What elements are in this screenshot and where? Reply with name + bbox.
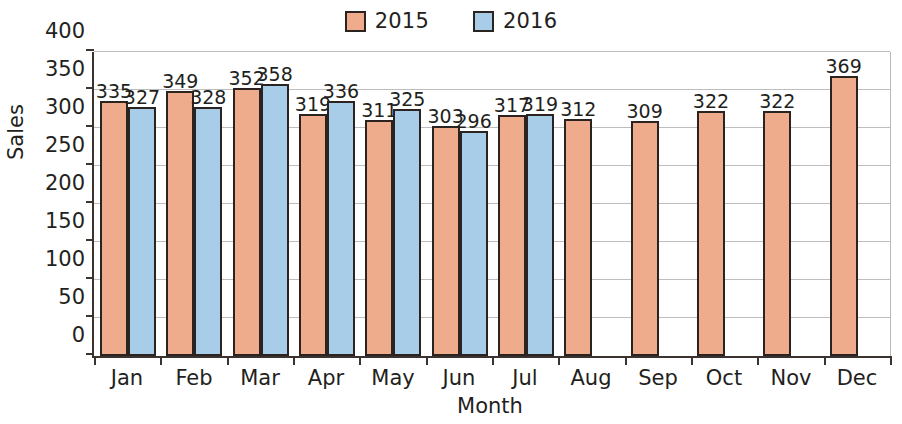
bars: 322 (757, 52, 823, 356)
x-tick-mark (691, 356, 693, 365)
bars: 312 (558, 52, 624, 356)
bar-2015-apr: 319 (299, 114, 327, 356)
x-tick-label-aug: Aug (570, 368, 611, 389)
legend-swatch-2016 (473, 11, 494, 32)
plot-area: 050100150200250300350400 335327349328352… (92, 52, 890, 358)
bar-value-label: 309 (626, 102, 662, 121)
bars: 317319 (492, 52, 558, 356)
bar-value-label: 322 (759, 92, 795, 111)
bar-value-label: 358 (257, 65, 293, 84)
bar-2016-jul: 319 (526, 114, 554, 356)
y-tick-mark (86, 125, 94, 127)
x-tick-mark (94, 356, 96, 365)
bar-value-label: 328 (190, 88, 226, 107)
x-tick-label-oct: Oct (706, 368, 742, 389)
x-tick-mark (426, 356, 428, 365)
y-tick-label: 400 (45, 21, 85, 42)
x-axis-title: Month (92, 396, 888, 417)
y-tick-mark (86, 49, 94, 51)
bars: 303296 (426, 52, 492, 356)
legend-entry-2015: 2015 (345, 11, 429, 32)
bar-group-jan: 335327 (94, 52, 160, 356)
bar-groups: 3353273493283523583193363113253032963173… (94, 52, 890, 356)
y-tick-label: 250 (45, 135, 85, 156)
bars: 335327 (94, 52, 160, 356)
bar-group-aug: 312 (558, 52, 624, 356)
x-tick-label-dec: Dec (837, 368, 878, 389)
bar-2015-jan: 335 (100, 101, 128, 356)
y-tick-mark (86, 239, 94, 241)
bar-2015-feb: 349 (166, 91, 194, 356)
bars: 319336 (293, 52, 359, 356)
y-tick-label: 150 (45, 211, 85, 232)
y-axis-title: Sales (6, 104, 27, 160)
bar-value-label: 369 (825, 57, 861, 76)
x-tick-mark (293, 356, 295, 365)
bar-group-nov: 322 (757, 52, 823, 356)
legend-label-2015: 2015 (375, 11, 429, 32)
y-tick-label: 350 (45, 59, 85, 80)
bars: 322 (691, 52, 757, 356)
x-tick-mark (824, 356, 826, 365)
x-tick-label-jun: Jun (443, 368, 476, 389)
bar-value-label: 296 (456, 112, 492, 131)
bar-2015-sep: 309 (631, 121, 659, 356)
bar-2015-mar: 352 (233, 88, 261, 356)
x-tick-label-mar: Mar (240, 368, 280, 389)
x-tick-mark (558, 356, 560, 365)
x-tick-mark (359, 356, 361, 365)
bar-group-jun: 303296 (426, 52, 492, 356)
legend-swatch-2015 (345, 11, 366, 32)
x-tick-mark (757, 356, 759, 365)
bar-2015-jun: 303 (432, 126, 460, 356)
bar-group-sep: 309 (625, 52, 691, 356)
y-tick-mark (86, 353, 94, 355)
bar-group-dec: 369 (824, 52, 890, 356)
y-tick-label: 200 (45, 173, 85, 194)
bar-value-label: 322 (693, 92, 729, 111)
bars: 311325 (359, 52, 425, 356)
bar-group-mar: 352358 (227, 52, 293, 356)
x-tick-label-jan: Jan (111, 368, 143, 389)
y-tick-label: 50 (58, 287, 85, 308)
bars: 309 (625, 52, 691, 356)
x-tick-mark (492, 356, 494, 365)
bar-2015-may: 311 (365, 120, 393, 356)
x-tick-mark (890, 356, 892, 365)
x-tick-label-sep: Sep (638, 368, 678, 389)
bars: 352358 (227, 52, 293, 356)
bar-value-label: 319 (522, 95, 558, 114)
bar-2016-may: 325 (393, 109, 421, 356)
bar-2015-aug: 312 (564, 119, 592, 356)
bar-value-label: 336 (323, 82, 359, 101)
bar-2015-nov: 322 (763, 111, 791, 356)
bar-group-oct: 322 (691, 52, 757, 356)
x-tick-mark (227, 356, 229, 365)
bar-group-jul: 317319 (492, 52, 558, 356)
bars: 349328 (160, 52, 226, 356)
bar-group-apr: 319336 (293, 52, 359, 356)
bar-2016-feb: 328 (194, 107, 222, 356)
x-tick-label-may: May (371, 368, 414, 389)
legend-entry-2016: 2016 (473, 11, 557, 32)
bar-2016-jun: 296 (460, 131, 488, 356)
chart-legend: 2015 2016 (0, 4, 902, 38)
x-tick-mark (625, 356, 627, 365)
y-tick-mark (86, 87, 94, 89)
bar-group-may: 311325 (359, 52, 425, 356)
x-tick-label-feb: Feb (175, 368, 212, 389)
bar-2015-oct: 322 (697, 111, 725, 356)
bars: 369 (824, 52, 890, 356)
legend-label-2016: 2016 (503, 11, 557, 32)
y-tick-label: 100 (45, 249, 85, 270)
y-tick-mark (86, 315, 94, 317)
bar-2015-jul: 317 (498, 115, 526, 356)
bar-value-label: 325 (389, 90, 425, 109)
y-tick-mark (86, 201, 94, 203)
plot-right-edge (890, 52, 891, 356)
y-tick-mark (86, 277, 94, 279)
bar-group-feb: 349328 (160, 52, 226, 356)
x-tick-label-apr: Apr (308, 368, 344, 389)
bar-2016-jan: 327 (128, 107, 156, 356)
bar-2015-dec: 369 (830, 76, 858, 356)
